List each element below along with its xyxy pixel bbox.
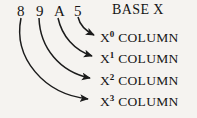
digit-place-1: A bbox=[54, 4, 65, 19]
column-word: COLUMN bbox=[118, 30, 178, 45]
column-exponent: 1 bbox=[110, 50, 115, 60]
digit-place-3: 8 bbox=[17, 4, 25, 19]
digit-place-0: 5 bbox=[74, 4, 82, 19]
arrow-digit-5-to-x0 bbox=[78, 17, 94, 35]
column-label-x0: X0COLUMN bbox=[100, 31, 179, 45]
column-exponent: 3 bbox=[110, 93, 115, 103]
column-label-x2: X2COLUMN bbox=[100, 74, 179, 88]
column-base-symbol: X bbox=[100, 94, 110, 109]
column-exponent: 0 bbox=[110, 29, 115, 39]
column-base-symbol: X bbox=[100, 51, 110, 66]
column-label-x1: X1COLUMN bbox=[100, 52, 179, 66]
base-label: BASE X bbox=[112, 3, 164, 17]
column-label-x3: X3COLUMN bbox=[100, 95, 179, 109]
column-word: COLUMN bbox=[118, 94, 178, 109]
column-word: COLUMN bbox=[118, 51, 178, 66]
arrow-digit-8-to-x3 bbox=[20, 18, 88, 99]
digit-place-2: 9 bbox=[36, 4, 44, 19]
column-base-symbol: X bbox=[100, 30, 110, 45]
column-word: COLUMN bbox=[118, 73, 178, 88]
column-exponent: 2 bbox=[110, 72, 115, 82]
column-base-symbol: X bbox=[100, 73, 110, 88]
base-x-positional-notation-diagram: 8 9 A 5 BASE X X0COLUMN X1COLUMN X2COLUM… bbox=[0, 0, 197, 118]
arrow-digit-a-to-x1 bbox=[58, 18, 92, 56]
